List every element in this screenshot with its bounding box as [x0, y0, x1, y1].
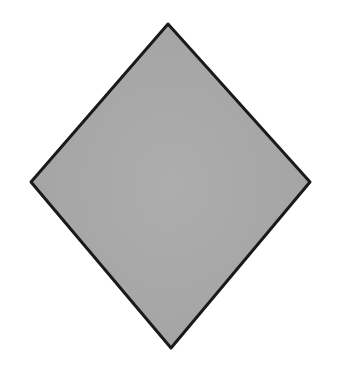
diamond-shape [31, 24, 310, 348]
diagram-canvas [0, 0, 337, 372]
